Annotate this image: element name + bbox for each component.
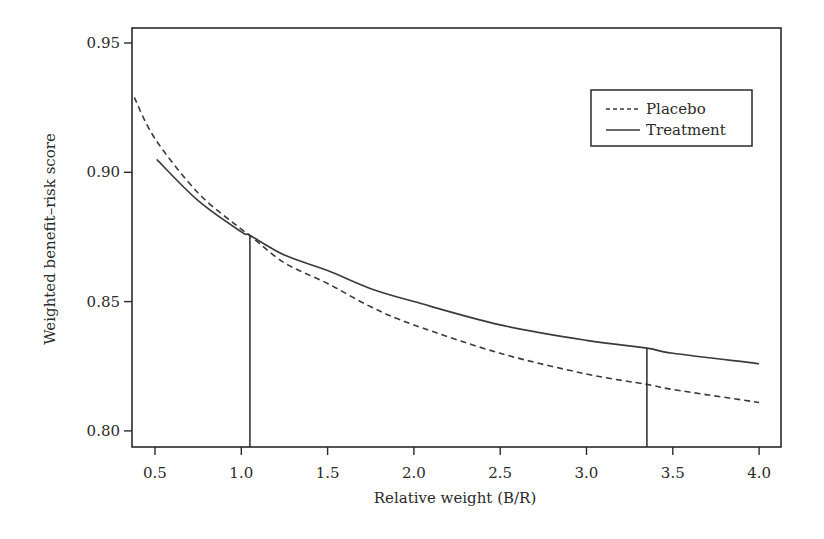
- x-tick-label: 3.5: [661, 464, 685, 482]
- legend: Placebo Treatment: [591, 90, 752, 146]
- x-axis-label: Relative weight (B/R): [374, 489, 537, 507]
- legend-treatment-label: Treatment: [646, 121, 726, 139]
- y-axis-label: Weighted benefit–risk score: [41, 133, 59, 345]
- x-tick-label: 1.5: [316, 464, 340, 482]
- y-tick-label: 0.90: [87, 163, 120, 181]
- chart: 0.51.01.52.02.53.03.54.00.800.850.900.95…: [0, 0, 824, 539]
- x-tick-label: 4.0: [747, 464, 771, 482]
- x-tick-label: 2.0: [402, 464, 426, 482]
- legend-placebo-label: Placebo: [646, 100, 706, 118]
- x-tick-label: 1.0: [229, 464, 253, 482]
- y-tick-label: 0.85: [87, 293, 120, 311]
- x-tick-label: 2.5: [488, 464, 512, 482]
- y-tick-label: 0.95: [87, 34, 120, 52]
- x-tick-label: 0.5: [143, 464, 167, 482]
- series-treatment-line: [157, 159, 759, 363]
- x-tick-label: 3.0: [575, 464, 599, 482]
- y-tick-label: 0.80: [87, 422, 120, 440]
